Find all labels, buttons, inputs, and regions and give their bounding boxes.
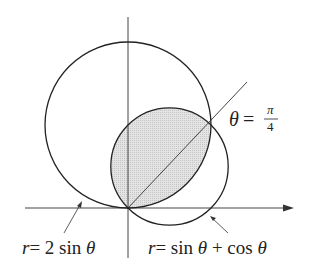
ray-label-theta: θ xyxy=(229,108,239,130)
pointer-arrowhead-icon xyxy=(210,216,216,221)
ray-label-denominator: 4 xyxy=(267,119,274,134)
ray-label-equals: = xyxy=(243,108,254,130)
x-axis-arrow-icon xyxy=(283,205,294,212)
label-small-circle: r= sin θ + cos θ xyxy=(148,237,267,258)
pointer-small-circle xyxy=(212,218,228,233)
label-large-circle: r= 2 sin θ xyxy=(22,237,95,258)
pointer-arrowhead-icon xyxy=(77,201,82,208)
ray-label-numerator: π xyxy=(267,102,274,117)
polar-diagram: θ = π 4 r= 2 sin θ r= sin θ + cos θ xyxy=(0,0,312,267)
